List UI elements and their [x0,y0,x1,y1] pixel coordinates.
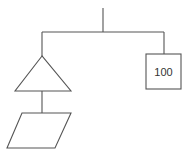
parallelogram-weight [7,113,71,148]
triangle-weight [15,56,71,91]
box-weight-label: 100 [154,66,172,78]
mobile-diagram: 100 [0,0,192,158]
